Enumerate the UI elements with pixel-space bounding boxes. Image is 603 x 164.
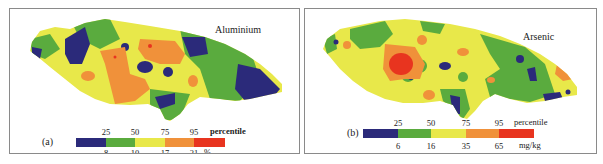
- legend-swatch: [76, 138, 106, 147]
- legend-value: 10: [131, 148, 140, 154]
- legend-percentile: 75: [161, 127, 170, 137]
- legend-swatch: [363, 129, 398, 138]
- panel-aluminium: Aluminium (a) 25 50 75 95 percentile 8 1…: [9, 8, 300, 154]
- legend-percentile-label: percentile: [210, 126, 246, 136]
- legend-swatch: [466, 129, 499, 138]
- legend-swatch: [431, 129, 466, 138]
- legend-swatch: [135, 138, 165, 147]
- legend-percentile: 50: [427, 118, 436, 128]
- panel-label: (b): [347, 127, 359, 138]
- legend-percentile-label: percentile: [514, 117, 548, 127]
- legend-swatch: [194, 138, 225, 147]
- legend-value: 21: [190, 148, 199, 154]
- legend-percentile: 95: [190, 127, 199, 137]
- legend-value: 35: [462, 141, 471, 151]
- legend-percentile: 95: [495, 118, 504, 128]
- legend-swatch: [165, 138, 194, 147]
- legend-value: 6: [396, 141, 400, 151]
- legend-value: 65: [495, 141, 504, 151]
- legend-unit: %: [204, 147, 211, 154]
- panel-title: Arsenic: [523, 31, 554, 42]
- legend-swatch: [106, 138, 135, 147]
- legend-percentile: 25: [394, 118, 403, 128]
- legend-unit: mg/kg: [519, 140, 541, 150]
- legend-value: 16: [427, 141, 436, 151]
- panel-label: (a): [42, 136, 53, 147]
- panel-arsenic: Arsenic (b) 25 50 75 95 percentile 6 16 …: [304, 8, 597, 154]
- legend-percentile: 50: [131, 127, 140, 137]
- legend-colorbar: [363, 129, 534, 138]
- legend-swatch: [398, 129, 431, 138]
- legend-percentile: 75: [462, 118, 471, 128]
- legend-value: 17: [161, 148, 170, 154]
- legend-percentile: 25: [102, 127, 111, 137]
- legend-value: 8: [104, 148, 108, 154]
- panel-title: Aluminium: [215, 24, 261, 35]
- legend-swatch: [499, 129, 534, 138]
- legend-colorbar: [76, 138, 225, 147]
